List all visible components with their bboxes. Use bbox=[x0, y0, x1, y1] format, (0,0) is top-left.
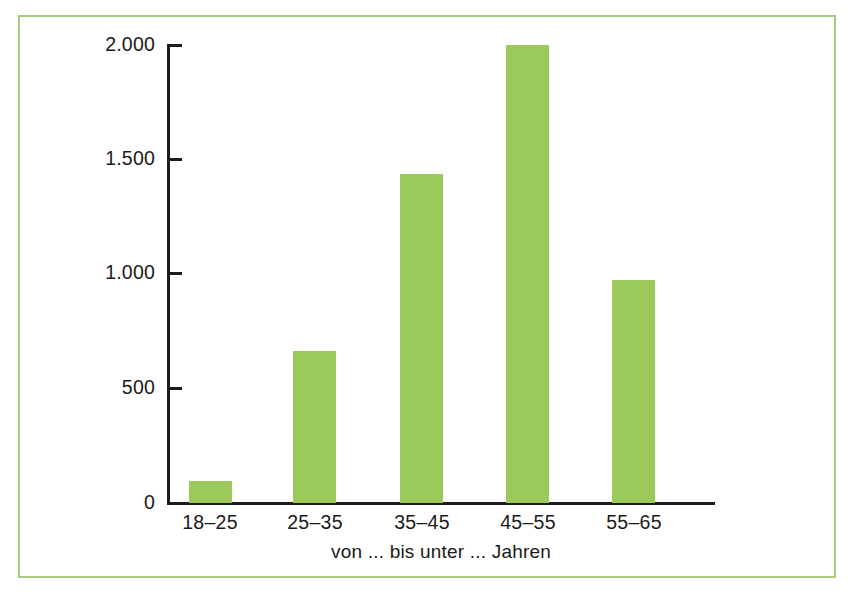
y-tick-label-0: 0 bbox=[42, 491, 155, 514]
x-axis-title: von ... bis unter ... Jahren bbox=[167, 541, 715, 563]
y-tick-label-2000: 2.000 bbox=[42, 33, 155, 56]
chart-figure: 2.000 1.500 1.000 500 0 18–25 25–35 35–4… bbox=[0, 0, 852, 602]
y-tick-mark-1000 bbox=[167, 272, 182, 275]
y-tick-label-1000: 1.000 bbox=[42, 261, 155, 284]
bar-55-65 bbox=[612, 280, 655, 503]
y-tick-label-2000-wrap: 2.000 bbox=[42, 33, 155, 57]
y-tick-mark-2000 bbox=[167, 44, 182, 47]
plot-area: 2.000 1.500 1.000 500 0 18–25 25–35 35–4… bbox=[0, 0, 852, 602]
y-tick-label-500-wrap: 500 bbox=[42, 376, 155, 400]
bar-18-25 bbox=[189, 481, 232, 503]
y-tick-label-1000-wrap: 1.000 bbox=[42, 261, 155, 285]
bar-35-45 bbox=[400, 174, 443, 503]
y-tick-label-1500: 1.500 bbox=[42, 147, 155, 170]
bar-25-35 bbox=[293, 351, 336, 503]
bar-45-55 bbox=[506, 45, 549, 503]
y-tick-mark-500 bbox=[167, 387, 182, 390]
y-tick-mark-1500 bbox=[167, 158, 182, 161]
y-tick-label-1500-wrap: 1.500 bbox=[42, 147, 155, 171]
y-tick-label-0-wrap: 0 bbox=[42, 491, 155, 515]
y-tick-mark-0 bbox=[167, 502, 182, 505]
x-tick-label-4: 55–65 bbox=[569, 511, 699, 534]
y-tick-label-500: 500 bbox=[42, 376, 155, 399]
